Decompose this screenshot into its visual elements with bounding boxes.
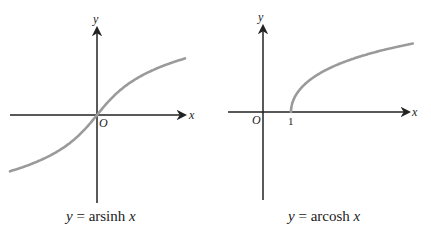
y-axis-label: y (257, 10, 264, 24)
caption-x: x (354, 208, 361, 224)
arcosh-graph: x y O 1 (228, 10, 418, 200)
caption-arsinh: y = arsinh x (66, 208, 136, 225)
y-axis-label: y (92, 12, 99, 26)
origin-label: O (99, 116, 108, 130)
arsinh-graph: x y O (10, 12, 195, 203)
origin-label: O (252, 113, 261, 127)
x-axis-label: x (188, 108, 195, 122)
x-axis-label: x (411, 105, 418, 119)
tick-label-1: 1 (288, 115, 294, 127)
caption-y: y (66, 208, 73, 224)
caption-x: x (129, 208, 136, 224)
graphs-canvas: x y O x y O 1 (0, 0, 431, 239)
caption-eq: = arsinh (73, 208, 129, 224)
caption-arcosh: y = arcosh x (288, 208, 360, 225)
arcosh-curve (291, 44, 413, 113)
caption-y: y (288, 208, 295, 224)
caption-eq: = arcosh (295, 208, 354, 224)
